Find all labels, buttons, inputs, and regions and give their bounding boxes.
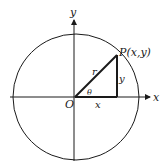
horizontal-label: x <box>95 99 101 110</box>
diagram-canvas: y x O P(x,y) r y x θ <box>0 0 168 167</box>
point-label: P(x,y) <box>118 46 151 59</box>
origin-label: O <box>65 98 74 111</box>
vertical-label: y <box>118 73 125 84</box>
x-axis-label: x <box>153 91 160 104</box>
angle-label: θ <box>87 88 92 97</box>
y-axis-label: y <box>69 6 77 19</box>
